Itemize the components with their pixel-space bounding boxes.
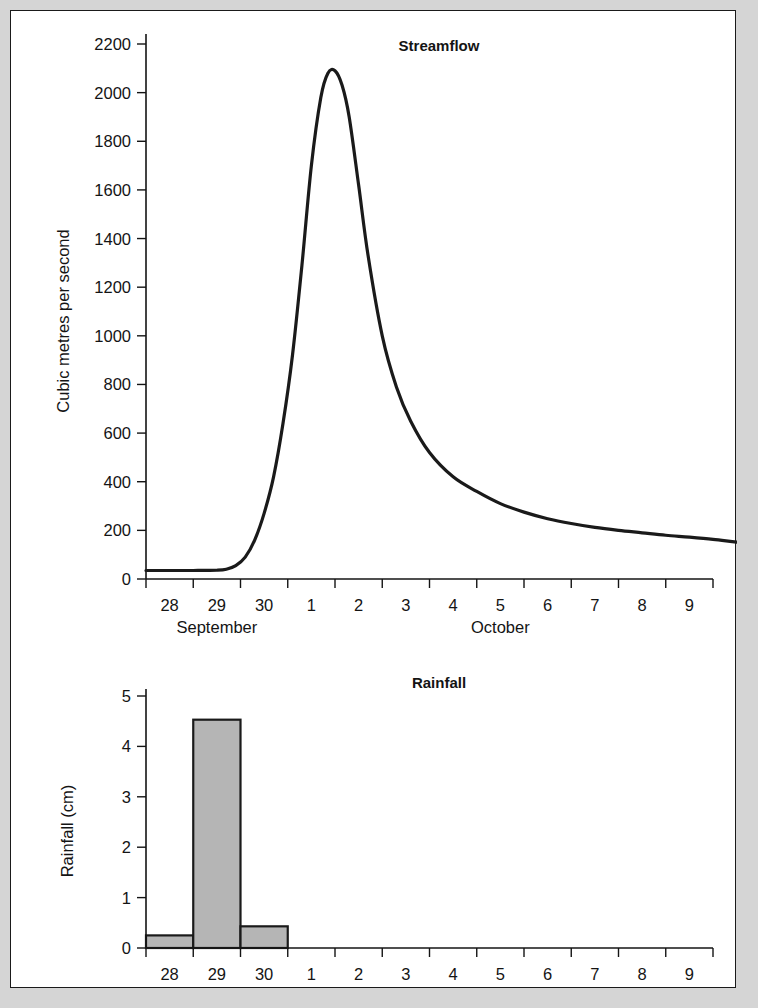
rainfall-y-tick-label: 5 — [122, 687, 131, 705]
streamflow-x-tick-label: 7 — [590, 596, 599, 614]
streamflow-x-tick-label: 3 — [401, 596, 410, 614]
streamflow-y-tick-label: 200 — [103, 521, 131, 539]
streamflow-month-label-september: September — [177, 618, 258, 636]
streamflow-y-tick-label: 0 — [122, 570, 131, 588]
streamflow-y-tick-group: 0200400600800100012001400160018002000220… — [94, 35, 146, 588]
rainfall-bar — [193, 720, 240, 948]
streamflow-y-tick-label: 1600 — [94, 181, 131, 199]
rainfall-x-tick-label: 30 — [255, 965, 273, 983]
streamflow-y-tick-label: 600 — [103, 424, 131, 442]
streamflow-x-tick-label: 9 — [685, 596, 694, 614]
rainfall-x-tick-label: 2 — [354, 965, 363, 983]
streamflow-y-tick-label: 400 — [103, 473, 131, 491]
streamflow-x-tick-group: 282930123456789 — [146, 579, 713, 614]
streamflow-x-tick-label: 5 — [496, 596, 505, 614]
rainfall-y-tick-label: 3 — [122, 788, 131, 806]
streamflow-x-tick-label: 30 — [255, 596, 273, 614]
rainfall-bar — [241, 926, 288, 948]
streamflow-chart: Streamflow Cubic metres per second 02004… — [11, 11, 737, 651]
rainfall-y-tick-label: 1 — [122, 889, 131, 907]
streamflow-y-axis-label: Cubic metres per second — [54, 229, 72, 412]
streamflow-x-tick-label: 6 — [543, 596, 552, 614]
streamflow-y-tick-label: 1000 — [94, 327, 131, 345]
rainfall-panel: Rainfall Rainfall (cm) 012345 2829301234… — [11, 651, 737, 989]
rainfall-title: Rainfall — [412, 674, 466, 691]
streamflow-y-tick-label: 2200 — [94, 35, 131, 53]
rainfall-x-tick-label: 3 — [401, 965, 410, 983]
streamflow-y-tick-label: 2000 — [94, 84, 131, 102]
rainfall-y-tick-label: 4 — [122, 737, 131, 755]
rainfall-y-tick-label: 0 — [122, 939, 131, 957]
rainfall-x-tick-label: 7 — [590, 965, 599, 983]
streamflow-y-tick-label: 1800 — [94, 132, 131, 150]
streamflow-x-tick-label: 4 — [449, 596, 458, 614]
streamflow-title: Streamflow — [399, 37, 480, 54]
rainfall-x-tick-label: 9 — [685, 965, 694, 983]
streamflow-y-tick-label: 1200 — [94, 278, 131, 296]
rainfall-y-tick-group: 012345 — [122, 687, 146, 957]
figure-frame: Streamflow Cubic metres per second 02004… — [10, 10, 736, 988]
rainfall-bar — [146, 935, 193, 948]
streamflow-hydrograph-curve — [146, 69, 737, 570]
streamflow-x-tick-label: 8 — [638, 596, 647, 614]
streamflow-x-tick-label: 2 — [354, 596, 363, 614]
streamflow-x-tick-label: 28 — [160, 596, 178, 614]
rainfall-x-tick-label: 28 — [160, 965, 178, 983]
rainfall-chart: Rainfall Rainfall (cm) 012345 2829301234… — [11, 651, 737, 989]
rainfall-bar-group — [146, 720, 288, 948]
streamflow-x-tick-label: 1 — [307, 596, 316, 614]
rainfall-x-tick-label: 6 — [543, 965, 552, 983]
rainfall-y-axis-label: Rainfall (cm) — [58, 785, 76, 878]
rainfall-x-tick-label: 29 — [208, 965, 226, 983]
rainfall-y-tick-label: 2 — [122, 838, 131, 856]
streamflow-y-tick-label: 1400 — [94, 230, 131, 248]
streamflow-x-tick-label: 29 — [208, 596, 226, 614]
rainfall-x-tick-label: 8 — [638, 965, 647, 983]
rainfall-x-tick-label: 1 — [307, 965, 316, 983]
streamflow-panel: Streamflow Cubic metres per second 02004… — [11, 11, 737, 651]
streamflow-month-label-october: October — [471, 618, 530, 636]
figure-page: Streamflow Cubic metres per second 02004… — [0, 0, 758, 1008]
rainfall-x-tick-group: 282930123456789 — [146, 948, 713, 983]
rainfall-x-tick-label: 5 — [496, 965, 505, 983]
streamflow-y-tick-label: 800 — [103, 375, 131, 393]
rainfall-x-tick-label: 4 — [449, 965, 458, 983]
